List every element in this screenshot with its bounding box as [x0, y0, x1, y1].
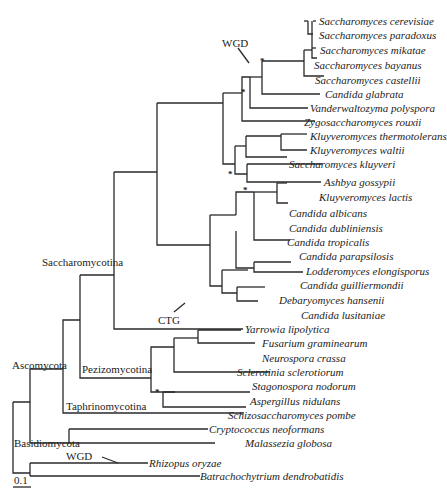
species-label: Saccharomyces kluyveri: [289, 158, 395, 170]
species-label: Kluyveromyces lactis: [319, 191, 412, 203]
species-label: Cryptococcus neoformans: [209, 423, 324, 435]
species-label: Candida guilliermondii: [300, 279, 404, 291]
clade-label-saccharomycotina: Saccharomycotina: [42, 256, 123, 268]
species-label: Malassezia globosa: [245, 437, 332, 449]
species-label: Fusarium graminearum: [262, 337, 367, 349]
species-label: Aspergillus nidulans: [250, 395, 340, 407]
species-label: Lodderomyces elongisporus: [306, 265, 429, 277]
support-marker: *: [241, 88, 246, 97]
scale-bar-label: 0.1: [14, 474, 28, 486]
wgd-label-top: WGD: [222, 37, 248, 49]
species-label: Candida glabrata: [325, 88, 404, 100]
species-label: Candida parapsilosis: [299, 250, 393, 262]
species-label: Yarrowia lipolytica: [245, 323, 329, 335]
species-label: Vanderwaltozyma polyspora: [310, 102, 435, 114]
species-label: Kluyveromyces waltii: [310, 144, 405, 156]
clade-label-basidiomycota: Basidiomycota: [14, 437, 80, 449]
species-label: Saccharomyces paradoxus: [319, 29, 436, 41]
species-label: Stagonospora nodorum: [252, 380, 356, 392]
species-label: Rhizopus oryzae: [149, 457, 221, 469]
species-label: Zygosaccharomyces rouxii: [304, 116, 421, 128]
species-label: Batrachochytrium dendrobatidis: [200, 470, 344, 482]
clade-label-pezizomycotina: Pezizomycotina: [82, 363, 152, 375]
clade-label-taphrinomycotina: Taphrinomycotina: [66, 400, 147, 412]
wgd-label-bottom: WGD: [66, 450, 92, 462]
support-marker: *: [228, 170, 233, 179]
species-label: Ashbya gossypii: [324, 176, 395, 188]
species-label: Saccharomyces bayanus: [314, 59, 421, 71]
species-label: Schizosaccharomyces pombe: [228, 409, 356, 421]
species-label: Candida tropicalis: [287, 236, 369, 248]
ctg-label: CTG: [158, 314, 180, 326]
species-label: Saccharomyces cerevisiae: [319, 15, 434, 27]
support-marker: *: [260, 57, 265, 66]
species-label: Sclerotinia sclerotiorum: [237, 366, 343, 378]
support-marker: *: [243, 186, 248, 195]
species-label: Saccharomyces castellii: [315, 74, 421, 86]
species-label: Debaryomyces hansenii: [279, 294, 384, 306]
species-label: Saccharomyces mikatae: [320, 44, 426, 56]
clade-label-ascomycota: Ascomycota: [12, 359, 67, 371]
support-marker: *: [155, 388, 160, 397]
species-label: Kluyveromyces thermotolerans: [310, 130, 447, 142]
species-label: Candida lusitaniae: [301, 309, 385, 321]
species-label: Candida albicans: [289, 207, 367, 219]
species-label: Neurospora crassa: [262, 352, 346, 364]
species-label: Candida dubliniensis: [289, 222, 383, 234]
